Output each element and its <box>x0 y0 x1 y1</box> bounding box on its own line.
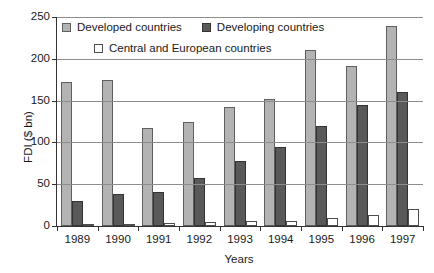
legend-row-1: Developed countries Developing countries <box>62 22 344 34</box>
bar-central-1991 <box>164 223 175 226</box>
y-tick-mark <box>52 59 57 60</box>
bar-developed-1992 <box>183 122 194 227</box>
x-tick-mark <box>98 226 99 231</box>
bar-developing-1991 <box>153 192 164 226</box>
chart-legend: Developed countries Developing countries… <box>62 22 344 63</box>
gridline <box>57 184 423 185</box>
bar-developed-1994 <box>264 99 275 226</box>
bar-developing-1995 <box>316 126 327 226</box>
y-tick-mark <box>52 142 57 143</box>
bar-developed-1997 <box>386 26 397 226</box>
bar-developed-1995 <box>305 50 316 226</box>
legend-swatch-developed-icon <box>62 23 71 32</box>
bar-central-1996 <box>368 215 379 226</box>
y-tick-mark <box>52 101 57 102</box>
bar-developed-1993 <box>224 107 235 226</box>
bar-developed-1990 <box>102 80 113 226</box>
bar-developing-1996 <box>357 105 368 226</box>
y-tick-label: 150 <box>31 95 50 107</box>
bar-group-1996: 1996 <box>342 17 383 226</box>
x-tick-label-1993: 1993 <box>227 233 253 245</box>
x-tick-mark <box>138 226 139 231</box>
gridline <box>57 101 423 102</box>
bar-central-1993 <box>246 221 257 226</box>
bar-central-1989 <box>83 224 94 226</box>
y-tick-mark <box>52 226 57 227</box>
legend-label-developing: Developing countries <box>217 22 324 34</box>
gridline <box>57 142 423 143</box>
y-tick-mark <box>52 184 57 185</box>
legend-swatch-central-icon <box>94 44 103 53</box>
x-tick-label-1989: 1989 <box>65 233 91 245</box>
x-tick-label-1996: 1996 <box>349 233 375 245</box>
x-tick-mark <box>382 226 383 231</box>
x-tick-mark <box>423 226 424 231</box>
bar-central-1990 <box>124 224 135 226</box>
y-tick-label: 250 <box>31 11 50 23</box>
y-tick-label: 50 <box>37 178 50 190</box>
x-tick-label-1994: 1994 <box>268 233 294 245</box>
x-tick-label-1990: 1990 <box>105 233 131 245</box>
bar-group-1997: 1997 <box>382 17 423 226</box>
bar-developing-1989 <box>72 201 83 226</box>
legend-entry-developed: Developed countries <box>62 22 182 34</box>
legend-entry-developing: Developing countries <box>202 22 324 34</box>
bar-developed-1996 <box>346 66 357 227</box>
y-tick-label: 0 <box>44 220 50 232</box>
x-tick-mark <box>342 226 343 231</box>
gridline <box>57 17 423 18</box>
bar-developing-1993 <box>235 161 246 226</box>
bar-developed-1989 <box>61 82 72 226</box>
y-tick-mark <box>52 17 57 18</box>
legend-label-central: Central and European countries <box>109 43 271 55</box>
x-tick-label-1992: 1992 <box>187 233 213 245</box>
x-tick-mark <box>301 226 302 231</box>
x-tick-mark <box>220 226 221 231</box>
legend-label-developed: Developed countries <box>77 22 182 34</box>
bar-central-1997 <box>408 209 419 226</box>
x-tick-label-1995: 1995 <box>309 233 335 245</box>
bar-developing-1990 <box>113 194 124 226</box>
fdi-bar-chart: FDI ($ bn) 19891990199119921993199419951… <box>0 0 434 273</box>
legend-entry-central: Central and European countries <box>94 43 271 55</box>
x-tick-mark <box>57 226 58 231</box>
x-tick-label-1991: 1991 <box>146 233 172 245</box>
bar-developing-1997 <box>397 92 408 226</box>
legend-row-2: Central and European countries <box>62 43 344 55</box>
bar-central-1994 <box>286 221 297 226</box>
x-tick-mark <box>260 226 261 231</box>
x-tick-mark <box>179 226 180 231</box>
bar-central-1992 <box>205 222 216 226</box>
y-tick-label: 200 <box>31 53 50 65</box>
bar-developing-1994 <box>275 147 286 226</box>
bar-central-1995 <box>327 218 338 226</box>
y-tick-label: 100 <box>31 137 50 149</box>
x-tick-label-1997: 1997 <box>390 233 416 245</box>
legend-swatch-developing-icon <box>202 23 211 32</box>
x-axis-title: Years <box>56 253 422 265</box>
